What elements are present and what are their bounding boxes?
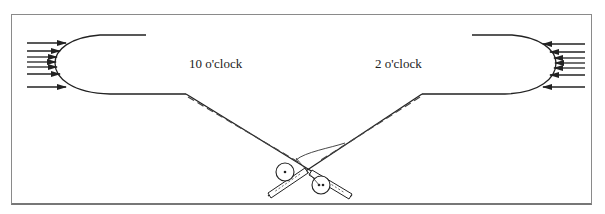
reel-icon (312, 176, 330, 194)
label-2-oclock: 2 o'clock (375, 56, 422, 72)
label-10-oclock: 10 o'clock (189, 56, 242, 72)
right-arrows-icon (543, 44, 585, 87)
rod-2-oclock (268, 94, 422, 198)
casting-diagram (0, 0, 605, 214)
left-line-loop (55, 35, 186, 94)
right-line-loop (422, 35, 556, 94)
rod-10-oclock (186, 94, 352, 199)
